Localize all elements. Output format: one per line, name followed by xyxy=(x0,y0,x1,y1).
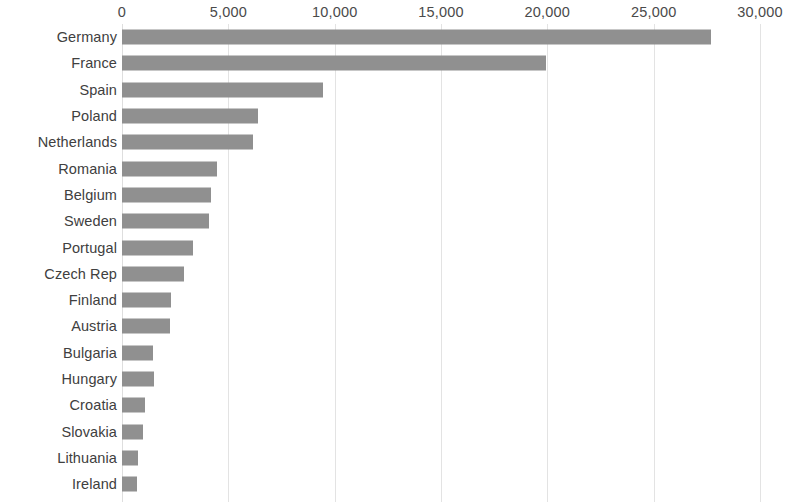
bar xyxy=(122,450,138,465)
category-label: Finland xyxy=(69,292,117,308)
x-axis-tick-label: 10,000 xyxy=(312,4,358,20)
category-label: Sweden xyxy=(64,213,117,229)
bar-row: Netherlands xyxy=(0,129,797,155)
category-label: Belgium xyxy=(64,187,117,203)
bar xyxy=(122,82,323,97)
bar-row-list: GermanyFranceSpainPolandNetherlandsRoman… xyxy=(0,24,797,497)
bar-row: Germany xyxy=(0,24,797,50)
bar-row: Finland xyxy=(0,287,797,313)
bar-row: Hungary xyxy=(0,366,797,392)
category-label: France xyxy=(71,55,117,71)
plot-area: GermanyFranceSpainPolandNetherlandsRoman… xyxy=(0,24,797,502)
bar xyxy=(122,56,546,71)
category-label: Czech Rep xyxy=(44,266,117,282)
bar xyxy=(122,319,170,334)
bar xyxy=(122,187,211,202)
bar-chart: 0 5,000 10,000 15,000 20,000 25,000 30,0… xyxy=(0,0,797,502)
bar xyxy=(122,398,145,413)
category-label: Portugal xyxy=(62,240,117,256)
x-axis-tick-label: 20,000 xyxy=(525,4,571,20)
bar-row: Belgium xyxy=(0,182,797,208)
bar xyxy=(122,109,258,124)
category-label: Slovakia xyxy=(61,424,117,440)
category-label: Ireland xyxy=(72,476,117,492)
bar-row: Austria xyxy=(0,313,797,339)
bar xyxy=(122,266,184,281)
category-label: Lithuania xyxy=(57,450,117,466)
bar xyxy=(122,240,193,255)
x-axis-tick-label-strip: 0 5,000 10,000 15,000 20,000 25,000 30,0… xyxy=(0,0,797,24)
bar-row: Poland xyxy=(0,103,797,129)
bar xyxy=(122,345,153,360)
bar-row: Bulgaria xyxy=(0,340,797,366)
category-label: Austria xyxy=(71,318,117,334)
x-axis-tick-label: 0 xyxy=(118,4,126,20)
category-label: Netherlands xyxy=(38,134,117,150)
bar-row: Slovakia xyxy=(0,418,797,444)
bar-row: France xyxy=(0,50,797,76)
bar-row: Ireland xyxy=(0,471,797,497)
bar-row: Sweden xyxy=(0,208,797,234)
bar xyxy=(122,477,137,492)
bar xyxy=(122,135,253,150)
bar xyxy=(122,372,154,387)
x-axis-tick-label: 25,000 xyxy=(631,4,677,20)
bar xyxy=(122,293,171,308)
bar xyxy=(122,424,143,439)
category-label: Hungary xyxy=(61,371,117,387)
category-label: Croatia xyxy=(70,397,117,413)
category-label: Bulgaria xyxy=(63,345,117,361)
bar-row: Spain xyxy=(0,77,797,103)
bar-row: Lithuania xyxy=(0,445,797,471)
x-axis-tick-label: 15,000 xyxy=(418,4,464,20)
x-axis-tick-label: 30,000 xyxy=(737,4,783,20)
bar-row: Croatia xyxy=(0,392,797,418)
bar-row: Czech Rep xyxy=(0,261,797,287)
bar-row: Portugal xyxy=(0,234,797,260)
category-label: Germany xyxy=(57,29,117,45)
bar-row: Romania xyxy=(0,155,797,181)
category-label: Romania xyxy=(58,161,117,177)
bar xyxy=(122,30,711,45)
bar xyxy=(122,161,217,176)
category-label: Spain xyxy=(79,82,117,98)
x-axis-tick-label: 5,000 xyxy=(210,4,247,20)
category-label: Poland xyxy=(71,108,117,124)
bar xyxy=(122,214,209,229)
